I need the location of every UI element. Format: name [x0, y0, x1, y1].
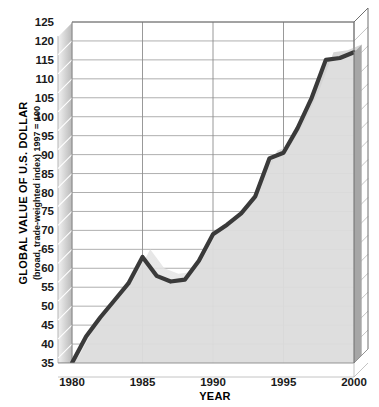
x-tick-label: 1980 — [59, 376, 85, 388]
x-axis-tick-labels: 19801985199019952000 — [59, 376, 367, 388]
right-depth-rib — [354, 27, 368, 41]
line-area-chart-3d: 3540455055606570758085909510010511011512… — [0, 0, 379, 407]
y-tick-label: 125 — [35, 16, 55, 28]
y-tick-label: 95 — [41, 130, 54, 142]
x-axis-title: YEAR — [199, 390, 230, 402]
y-tick-label: 115 — [35, 54, 54, 66]
y-tick-label: 65 — [41, 243, 54, 255]
right-end-pillar — [354, 45, 362, 363]
chart-figure: 3540455055606570758085909510010511011512… — [0, 0, 379, 407]
y-tick-label: 60 — [41, 262, 54, 274]
y-tick-label: 90 — [41, 149, 54, 161]
x-tick-label: 1985 — [130, 376, 156, 388]
y-tick-label: 75 — [41, 205, 54, 217]
x-tick-label: 2000 — [341, 376, 367, 388]
y-tick-label: 50 — [41, 300, 54, 312]
y-axis-title: GLOBAL VALUE OF U.S. DOLLAR — [17, 102, 29, 285]
y-axis-subtitle: (broad, trade-weighted index) 1997 = 100 — [32, 106, 42, 280]
x-tick-label: 1990 — [200, 376, 226, 388]
x-tick-label: 1995 — [271, 376, 297, 388]
y-tick-label: 120 — [35, 35, 54, 47]
y-tick-label: 40 — [41, 338, 54, 350]
y-tick-label: 85 — [41, 168, 54, 180]
y-tick-label: 35 — [41, 357, 54, 369]
y-tick-label: 70 — [41, 224, 54, 236]
y-tick-label: 110 — [35, 73, 54, 85]
y-tick-label: 105 — [35, 92, 55, 104]
y-tick-label: 45 — [41, 319, 54, 331]
y-tick-label: 55 — [41, 281, 54, 293]
y-tick-label: 80 — [41, 187, 54, 199]
left-3d-wall — [58, 22, 72, 363]
plot-frame — [72, 8, 368, 22]
